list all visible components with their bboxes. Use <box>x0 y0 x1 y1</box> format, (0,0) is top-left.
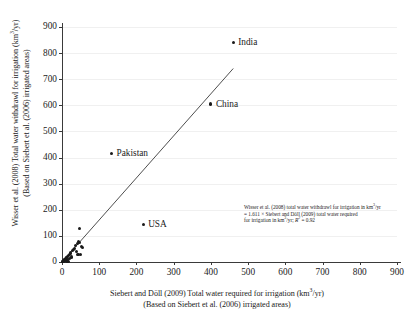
x-tick-label: 700 <box>303 268 343 277</box>
x-tick-label: 200 <box>116 268 156 277</box>
x-axis-title: Siebert and Döll (2009) Total water requ… <box>34 288 400 311</box>
x-tick-label: 900 <box>377 268 411 277</box>
x-tick-label: 400 <box>191 268 231 277</box>
y-tick-label: 400 <box>23 153 57 162</box>
x-axis-title-line2: (Based on Siebert et al. (2006) irrigate… <box>143 300 290 309</box>
annotation-line-3-text: for irrigation in km <box>244 217 284 223</box>
x-tick-label: 800 <box>340 268 380 277</box>
y-axis-title-line2: (Based on Siebert et al. (2006) irrigate… <box>22 49 31 196</box>
annotation-line-3: for irrigation in km3/yr; R2 = 0.92 <box>244 217 411 224</box>
y-tick-label: 0 <box>23 257 57 266</box>
point-label-china: China <box>216 100 238 109</box>
x-axis-title-line1: Siebert and Döll (2009) Total water requ… <box>110 289 324 298</box>
annotation-line-1-units: /yr <box>375 204 381 210</box>
x-tick-label: 600 <box>265 268 305 277</box>
x-tick-label: 100 <box>79 268 119 277</box>
y-tick-label: 200 <box>23 205 57 214</box>
point-label-pakistan: Pakistan <box>117 149 149 158</box>
data-point-usa <box>142 223 145 226</box>
y-axis-title-line1: Wisser et al. (2008) Total water withdra… <box>11 20 20 227</box>
y-tick-label: 900 <box>23 22 57 31</box>
trend-line <box>62 27 397 262</box>
y-tick-label: 700 <box>23 75 57 84</box>
r-squared-value: = 0.92 <box>300 217 315 223</box>
x-axis-title-line1-text: Siebert and Döll (2009) Total water requ… <box>110 289 310 298</box>
x-axis-title-units: /yr) <box>312 289 324 298</box>
point-label-india: India <box>238 38 257 47</box>
x-tick-label: 500 <box>228 268 268 277</box>
y-axis-title-line1-text: Wisser et al. (2008) Total water withdra… <box>11 34 20 226</box>
y-tick-label: 100 <box>23 231 57 240</box>
y-axis-title-superscript: 3 <box>9 31 15 34</box>
x-axis-line <box>62 262 401 263</box>
x-tick-label: 300 <box>154 268 194 277</box>
y-tick-label: 300 <box>23 179 57 188</box>
data-point <box>65 260 68 263</box>
y-axis-title-units: /yr) <box>11 20 20 32</box>
data-point-india <box>232 41 235 44</box>
annotation-line-1-text: Wisser et al. (2008) total water withdra… <box>244 204 373 210</box>
x-tick-label: 0 <box>42 268 82 277</box>
point-label-usa: USA <box>148 220 167 229</box>
plot-area: 0100200300400500600700800900 01002003004… <box>62 27 397 262</box>
scatter-chart-figure: Wisser et al. (2008) Total water withdra… <box>0 0 411 324</box>
y-tick-label: 600 <box>23 101 57 110</box>
y-tick-label: 500 <box>23 127 57 136</box>
regression-annotation: Wisser et al. (2008) total water withdra… <box>244 204 411 224</box>
annotation-line-3-units: /yr; <box>286 217 295 223</box>
y-tick-label: 800 <box>23 49 57 58</box>
